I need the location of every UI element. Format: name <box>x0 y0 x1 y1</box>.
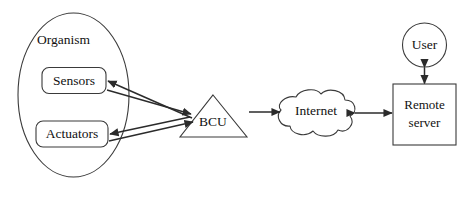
actuators-label: Actuators <box>46 126 98 141</box>
sensors-label: Sensors <box>53 73 95 88</box>
remote-server-label-line1: Remote <box>404 97 445 112</box>
internet-label: Internet <box>295 103 337 118</box>
user-label: User <box>412 37 438 52</box>
organism-label: Organism <box>37 32 90 47</box>
diagram-canvas: Organism Sensors Actuators BCU Internet … <box>0 0 474 205</box>
diagram-svg: Organism Sensors Actuators BCU Internet … <box>0 0 474 205</box>
remote-server-label-line2: server <box>409 115 441 130</box>
bcu-label: BCU <box>199 114 227 129</box>
